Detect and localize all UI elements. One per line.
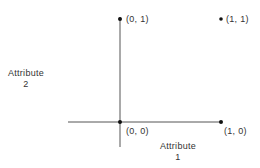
point-label-1-0: (1, 0) [224, 126, 247, 136]
point-label-0-0: (0, 0) [126, 126, 149, 136]
point-0-1 [118, 17, 122, 21]
point-1-0 [219, 120, 223, 124]
y-axis-title-line2: 2 [6, 79, 46, 90]
y-axis-title-line1: Attribute [6, 68, 46, 79]
x-axis-title: Attribute 1 [158, 141, 198, 163]
point-0-0 [118, 120, 122, 124]
y-axis-title: Attribute 2 [6, 68, 46, 90]
point-label-1-1: (1, 1) [226, 14, 249, 24]
x-axis-title-line2: 1 [158, 152, 198, 163]
x-axis-title-line1: Attribute [158, 141, 198, 152]
point-label-0-1: (0, 1) [126, 14, 149, 24]
point-1-1 [219, 17, 223, 21]
